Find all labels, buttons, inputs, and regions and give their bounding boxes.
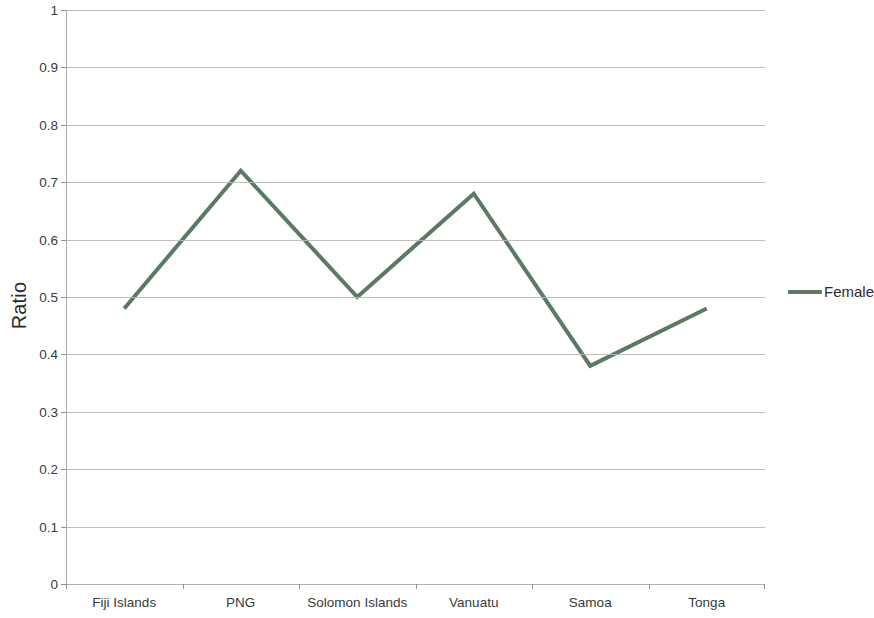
x-tick-mark	[532, 584, 533, 589]
x-tick-mark	[299, 584, 300, 589]
y-tick-label: 0.3	[39, 404, 58, 419]
legend-label-female: Female	[824, 283, 874, 300]
x-category-label: Vanuatu	[449, 595, 498, 610]
gridline	[66, 297, 765, 298]
y-tick-mark	[61, 67, 66, 68]
line-chart: Ratio 10.90.80.70.60.50.40.30.20.10 Fiji…	[0, 0, 874, 618]
gridline	[66, 469, 765, 470]
x-axis-category-labels: Fiji IslandsPNGSolomon IslandsVanuatuSam…	[66, 595, 765, 618]
legend-line-swatch-female	[788, 290, 822, 294]
gridline	[66, 182, 765, 183]
y-tick-label: 0.7	[39, 175, 58, 190]
x-tick-mark	[764, 584, 765, 589]
gridline	[66, 10, 765, 11]
y-tick-label: 0.9	[39, 60, 58, 75]
x-tick-mark	[66, 584, 67, 589]
y-axis-tick-labels: 10.90.80.70.60.50.40.30.20.10	[24, 0, 58, 618]
x-category-label: Samoa	[569, 595, 612, 610]
x-category-label: Fiji Islands	[92, 595, 156, 610]
x-tick-mark	[183, 584, 184, 589]
x-category-label: PNG	[226, 595, 255, 610]
y-tick-mark	[61, 297, 66, 298]
y-tick-label: 0.8	[39, 117, 58, 132]
y-tick-mark	[61, 240, 66, 241]
y-tick-label: 0.5	[39, 290, 58, 305]
x-tick-mark	[649, 584, 650, 589]
gridline	[66, 354, 765, 355]
gridline	[66, 240, 765, 241]
y-tick-label: 0.4	[39, 347, 58, 362]
y-tick-mark	[61, 354, 66, 355]
x-tick-mark	[416, 584, 417, 589]
y-tick-mark	[61, 182, 66, 183]
y-tick-mark	[61, 412, 66, 413]
gridline	[66, 125, 765, 126]
y-tick-mark	[61, 469, 66, 470]
y-tick-label: 0	[50, 577, 58, 592]
y-tick-label: 0.6	[39, 232, 58, 247]
series-line-female	[124, 171, 707, 366]
x-category-label: Solomon Islands	[307, 595, 407, 610]
gridline	[66, 527, 765, 528]
y-tick-label: 1	[50, 3, 58, 18]
y-tick-mark	[61, 125, 66, 126]
chart-legend: Female	[788, 283, 874, 300]
plot-area	[66, 10, 765, 584]
y-tick-label: 0.1	[39, 519, 58, 534]
gridline	[66, 67, 765, 68]
x-category-label: Tonga	[688, 595, 725, 610]
gridline	[66, 412, 765, 413]
y-tick-mark	[61, 10, 66, 11]
y-tick-label: 0.2	[39, 462, 58, 477]
y-tick-mark	[61, 527, 66, 528]
